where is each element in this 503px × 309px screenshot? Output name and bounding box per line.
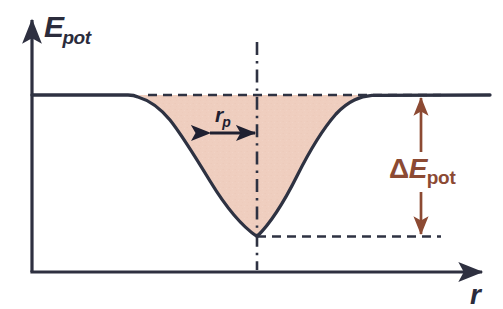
- delta-epot-label-main: E: [409, 153, 427, 184]
- delta-symbol: Δ: [389, 153, 409, 184]
- delta-epot-label-subscript: pot: [427, 167, 456, 188]
- x-axis-label-main: r: [470, 279, 481, 309]
- potential-well-figure: Epot r rp ΔEpot: [0, 0, 503, 309]
- well-shaded-area: [138, 95, 372, 236]
- rp-label-subscript: p: [222, 114, 231, 130]
- y-axis-label: Epot: [44, 12, 92, 42]
- y-axis-label-main: E: [44, 10, 64, 43]
- rp-label: rp: [215, 104, 232, 125]
- y-axis-label-subscript: pot: [63, 27, 91, 48]
- delta-epot-label: ΔEpot: [389, 155, 455, 183]
- x-axis-label: r: [470, 281, 481, 309]
